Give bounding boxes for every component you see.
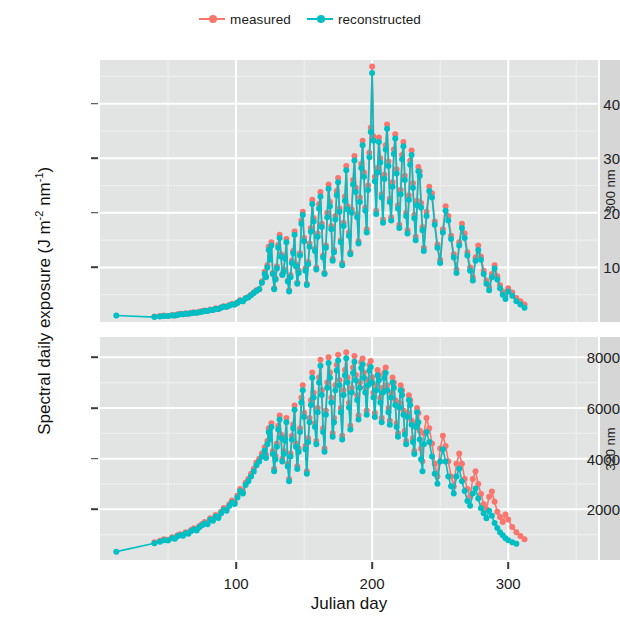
data-point — [313, 441, 319, 447]
data-point — [370, 138, 376, 144]
data-point — [470, 278, 476, 284]
data-point — [274, 444, 280, 450]
data-point — [362, 390, 368, 396]
data-point — [459, 478, 465, 484]
data-point — [282, 256, 288, 262]
data-point — [361, 375, 367, 381]
facet-strip-320nm: 320 nm — [600, 337, 620, 560]
data-point — [312, 248, 318, 254]
data-point — [489, 274, 495, 280]
data-point — [335, 179, 341, 185]
y-tick-label: 2000 — [532, 501, 620, 518]
data-point — [492, 520, 498, 526]
data-point — [494, 509, 500, 515]
data-point — [424, 213, 430, 219]
data-point — [293, 444, 299, 450]
data-point — [385, 163, 391, 169]
data-point — [234, 494, 240, 500]
data-point — [426, 439, 432, 445]
data-point — [368, 364, 374, 370]
data-point — [388, 217, 394, 223]
y-tick-mark — [91, 212, 98, 214]
data-point — [316, 205, 322, 211]
data-point — [470, 476, 476, 482]
legend-label-reconstructed: reconstructed — [338, 12, 421, 27]
data-point — [336, 382, 342, 388]
data-point — [259, 280, 265, 286]
data-point — [456, 451, 462, 457]
data-point — [354, 214, 360, 220]
data-point — [413, 237, 419, 243]
data-point — [509, 293, 515, 299]
data-point — [409, 152, 415, 158]
data-point — [339, 436, 345, 442]
data-point — [350, 181, 356, 187]
data-point — [426, 188, 432, 194]
data-point — [268, 424, 274, 430]
data-point — [358, 165, 364, 171]
data-point — [275, 426, 281, 432]
data-point — [296, 449, 302, 455]
x-tick-mark — [371, 562, 373, 569]
data-point — [308, 402, 314, 408]
data-point — [377, 399, 383, 405]
data-point — [403, 213, 409, 219]
data-point — [366, 154, 372, 160]
data-point — [419, 227, 425, 233]
data-point — [338, 409, 344, 415]
data-point — [368, 358, 374, 364]
data-point — [387, 422, 393, 428]
data-point — [387, 199, 393, 205]
data-point — [377, 160, 383, 166]
legend-item-reconstructed[interactable]: reconstructed — [307, 12, 421, 27]
data-point — [361, 174, 367, 180]
data-point — [336, 209, 342, 215]
data-point — [328, 226, 334, 232]
data-point — [453, 473, 459, 479]
plot-panel-320nm — [100, 337, 598, 560]
data-point — [388, 395, 394, 401]
data-point — [399, 156, 405, 162]
data-point — [380, 220, 386, 226]
data-point — [262, 448, 268, 454]
data-point — [287, 274, 293, 280]
data-point — [394, 424, 400, 430]
data-point — [351, 353, 357, 359]
data-point — [437, 260, 443, 266]
data-point — [304, 282, 310, 288]
data-point — [502, 296, 508, 302]
legend-item-measured[interactable]: measured — [199, 12, 291, 27]
data-point — [267, 436, 273, 442]
data-point — [360, 361, 366, 367]
data-point — [368, 129, 374, 135]
data-point — [277, 417, 283, 423]
data-point — [497, 514, 503, 520]
data-point — [293, 263, 299, 269]
data-point — [494, 276, 500, 282]
data-point — [379, 419, 385, 425]
legend-key-measured-icon — [199, 12, 225, 26]
data-point — [360, 142, 366, 148]
data-point — [483, 515, 489, 521]
data-point — [403, 441, 409, 447]
data-point — [407, 162, 413, 168]
data-point — [350, 370, 356, 376]
data-point — [462, 488, 468, 494]
data-point — [320, 429, 326, 435]
y-tick-mark — [91, 407, 98, 409]
data-point — [362, 208, 368, 214]
data-point — [383, 370, 389, 376]
data-point — [492, 266, 498, 272]
data-point — [300, 387, 306, 393]
data-point — [406, 197, 412, 203]
major-gridlines — [100, 337, 598, 560]
data-point — [395, 434, 401, 440]
data-point — [418, 456, 424, 462]
data-point — [475, 495, 481, 501]
data-point — [342, 198, 348, 204]
data-point — [298, 399, 304, 405]
y-tick-label: 8000 — [532, 349, 620, 366]
chart-figure: measured reconstructed Spectral daily ex… — [0, 0, 620, 623]
data-point — [429, 454, 435, 460]
data-point — [505, 516, 511, 522]
